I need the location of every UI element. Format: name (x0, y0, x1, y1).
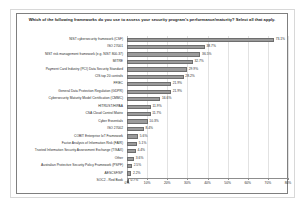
bar-wrapper: 38.7% (127, 43, 288, 50)
category-label-row: ISO 27001 (16, 43, 126, 50)
bar-row[interactable]: 5.1% (127, 140, 288, 147)
bar-wrapper: 21.9% (127, 88, 288, 95)
category-label: AESCSF/SP (104, 172, 123, 176)
bar-row[interactable]: 73.1% (127, 36, 288, 43)
bar-value-label: 29.9% (189, 68, 198, 72)
bar-wrapper: 11.7% (127, 110, 288, 117)
bar[interactable] (127, 60, 193, 64)
bar-wrapper: 11.9% (127, 103, 288, 110)
bar-row[interactable]: 2.5% (127, 162, 288, 169)
bar-row[interactable]: 16.6% (127, 96, 288, 103)
bar-wrapper: 21.9% (127, 81, 288, 88)
bar-row[interactable]: 11.9% (127, 103, 288, 110)
category-label-row: SOC2 - Red Book (16, 177, 126, 184)
bar-wrapper: 29.9% (127, 66, 288, 73)
x-tick (248, 178, 249, 180)
bar-row[interactable]: 11.7% (127, 110, 288, 117)
category-label-row: Trusted Information Security Assessment … (16, 148, 126, 155)
bar[interactable] (127, 112, 151, 116)
x-tick (187, 178, 188, 180)
bar-wrapper: 36.5% (127, 51, 288, 58)
bar-wrapper: 16.6% (127, 96, 288, 103)
bar-row[interactable]: 4.4% (127, 148, 288, 155)
category-label: Cyber Essentials (98, 120, 123, 124)
x-tick-label: 50% (224, 181, 231, 185)
x-tick-label: 80% (285, 181, 292, 185)
x-axis: 0%10%20%30%40%50%60%70%80% (127, 178, 288, 192)
bar-row[interactable]: 21.9% (127, 81, 288, 88)
x-tick-label: 70% (265, 181, 272, 185)
bar[interactable] (127, 97, 160, 101)
bars-container: 73.1%38.7%36.5%32.7%29.9%28.2%21.9%21.9%… (127, 36, 288, 178)
category-label: Trusted Information Security Assessment … (35, 149, 123, 153)
bar[interactable] (127, 67, 187, 71)
bar-row[interactable]: 36.5% (127, 51, 288, 58)
bar[interactable] (127, 75, 184, 79)
bar-wrapper: 10.3% (127, 118, 288, 125)
category-label: Cybersecurity Maturity Model Certificati… (49, 97, 123, 101)
bar-row[interactable]: 2.2% (127, 170, 288, 177)
category-label-row: Cybersecurity Maturity Model Certificati… (16, 96, 126, 103)
bar-value-label: 36.5% (202, 53, 211, 57)
bar[interactable] (127, 142, 137, 146)
bar-wrapper: 32.7% (127, 58, 288, 65)
bar[interactable] (127, 149, 136, 153)
x-tick-label: 60% (244, 181, 251, 185)
bar-value-label: 2.2% (133, 172, 141, 176)
bar-value-label: 32.7% (194, 60, 203, 64)
bar-wrapper: 28.2% (127, 73, 288, 80)
bar-row[interactable]: 38.7% (127, 43, 288, 50)
bar-value-label: 21.9% (173, 82, 182, 86)
bar-value-label: 16.6% (162, 97, 171, 101)
bar-row[interactable]: 28.2% (127, 73, 288, 80)
category-label-row: CIS top 20 controls (16, 73, 126, 80)
bar[interactable] (127, 52, 200, 56)
bar-row[interactable]: 29.9% (127, 66, 288, 73)
bar[interactable] (127, 90, 171, 94)
category-label: Factor Analysis of Information Risk (FAI… (62, 142, 123, 146)
category-label-row: Australian Protective Security Policy Fr… (16, 162, 126, 169)
bar-row[interactable]: 21.9% (127, 88, 288, 95)
bar-value-label: 5.6% (140, 135, 148, 139)
x-tick (288, 178, 289, 180)
bar[interactable] (127, 82, 171, 86)
x-tick (127, 178, 128, 180)
x-tick-label: 10% (144, 181, 151, 185)
x-tick-label: 30% (184, 181, 191, 185)
bar-value-label: 4.4% (137, 149, 145, 153)
category-label: FFIEC (113, 82, 123, 86)
x-tick (167, 178, 168, 180)
category-label-row: AESCSF/SP (16, 170, 126, 177)
category-label-row: Payment Card Industry (PCI) Data Securit… (16, 66, 126, 73)
category-axis-labels: NIST cybersecurity framework (CSF)ISO 27… (16, 36, 126, 178)
bar-row[interactable]: 32.7% (127, 58, 288, 65)
bar-wrapper: 2.5% (127, 162, 288, 169)
category-label: CIS top 20 controls (95, 75, 123, 79)
bar[interactable] (127, 105, 151, 109)
bar[interactable] (127, 127, 144, 131)
x-tick-label: 0% (125, 181, 130, 185)
chart-title: Which of the following frameworks do you… (22, 17, 282, 22)
category-label: HITRUST/HIPAA (98, 105, 123, 109)
category-label-row: COBIT Enterprise IoT Framework (16, 133, 126, 140)
bar-row[interactable]: 10.3% (127, 118, 288, 125)
category-label: NIST risk management framework (e.g. NIS… (45, 53, 123, 57)
screenshot-root: Which of the following frameworks do you… (0, 0, 308, 207)
bar-row[interactable]: 5.6% (127, 133, 288, 140)
bar[interactable] (127, 171, 131, 175)
plot-area: NIST cybersecurity framework (CSF)ISO 27… (16, 36, 288, 178)
bar[interactable] (127, 119, 148, 123)
bar[interactable] (127, 157, 134, 161)
bar-wrapper: 3.6% (127, 155, 288, 162)
bar[interactable] (127, 38, 274, 42)
category-label-row: General Data Protection Regulation (GDPR… (16, 88, 126, 95)
bar[interactable] (127, 134, 138, 138)
bar-wrapper: 5.6% (127, 133, 288, 140)
bar-value-label: 73.1% (276, 38, 285, 42)
bar-row[interactable]: 3.6% (127, 155, 288, 162)
bar[interactable] (127, 45, 205, 49)
x-tick (147, 178, 148, 180)
bar-row[interactable]: 8.4% (127, 125, 288, 132)
bar[interactable] (127, 164, 132, 168)
category-label-row: ISO 27002 (16, 125, 126, 132)
